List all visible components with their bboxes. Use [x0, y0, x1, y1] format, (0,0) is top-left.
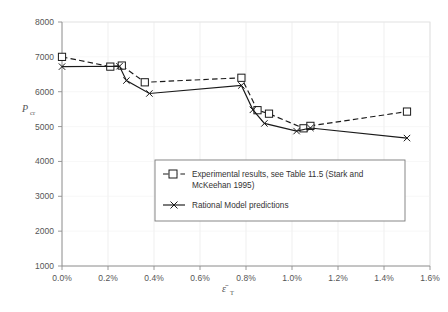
x-axis-title-subscript: T — [230, 289, 234, 296]
y-tick-label: 2000 — [35, 226, 54, 236]
y-tick-label: 4000 — [35, 156, 54, 166]
x-axis-ticks: 0.0%0.2%0.4%0.6%0.8%1.0%1.2%1.4%1.6% — [52, 266, 440, 283]
x-tick-label: 1.6% — [420, 273, 440, 283]
series-polyline — [62, 66, 407, 138]
x-tick-label: 0.8% — [236, 273, 256, 283]
legend-label-experimental-line1: Experimental results, see Table 11.5 (St… — [192, 170, 364, 179]
x-tick-label: 0.4% — [144, 273, 164, 283]
y-tick-label: 1000 — [35, 261, 54, 271]
y-axis-title-base: P — [21, 103, 28, 114]
chart-legend: Experimental results, see Table 11.5 (St… — [155, 160, 405, 221]
data-point-marker-square — [141, 79, 148, 86]
y-axis-title-subscript: cr — [30, 109, 36, 116]
series-layer — [58, 53, 410, 141]
grid-lines-vertical — [108, 22, 430, 266]
data-point-marker-square — [238, 74, 245, 81]
data-point-marker-x — [123, 77, 129, 83]
data-point-marker-square — [300, 125, 307, 132]
y-tick-label: 5000 — [35, 122, 54, 132]
x-tick-label: 1.4% — [374, 273, 394, 283]
line-chart: 10002000300040005000600070008000 0.0%0.2… — [0, 0, 448, 312]
y-tick-label: 6000 — [35, 87, 54, 97]
data-point-marker-square — [403, 108, 410, 115]
chart-container: 10002000300040005000600070008000 0.0%0.2… — [0, 0, 448, 312]
x-axis-title-base: ε̄ — [222, 283, 229, 294]
legend-label-rational-line1: Rational Model predictions — [192, 201, 288, 210]
y-tick-label: 8000 — [35, 17, 54, 27]
legend-swatch-square-icon — [169, 170, 177, 178]
y-tick-label: 3000 — [35, 191, 54, 201]
x-tick-label: 1.2% — [328, 273, 348, 283]
x-axis-title: ε̄ T — [222, 283, 234, 296]
legend-label-experimental-line2: McKeehan 1995) — [192, 181, 255, 190]
x-tick-label: 0.6% — [190, 273, 210, 283]
data-point-marker-square — [58, 53, 65, 60]
x-tick-label: 1.0% — [282, 273, 302, 283]
data-point-marker-square — [265, 110, 272, 117]
series-rational-model — [59, 63, 410, 141]
y-axis-title: P cr — [21, 103, 36, 116]
x-tick-label: 0.0% — [52, 273, 72, 283]
series-experimental — [58, 53, 410, 132]
x-tick-label: 0.2% — [98, 273, 118, 283]
y-tick-label: 7000 — [35, 52, 54, 62]
